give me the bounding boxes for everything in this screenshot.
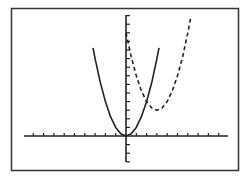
plot-frame (12, 9, 239, 171)
graph-screen (0, 0, 248, 184)
